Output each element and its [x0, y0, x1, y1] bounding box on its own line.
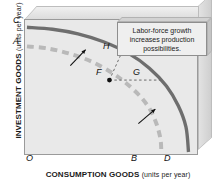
callout-box: Labor-force growth increases production …	[117, 22, 207, 56]
tick-label-C: C	[13, 15, 20, 25]
callout-text: Labor-force growth increases production …	[118, 26, 206, 53]
point-label-H: H	[103, 41, 110, 51]
x-axis-title-units: (units per year)	[142, 171, 191, 178]
tick-label-A: A	[13, 36, 19, 46]
x-axis-title: CONSUMPTION GOODS (units per year)	[28, 170, 208, 179]
point-label-G: G	[133, 67, 140, 77]
ppf-annotated-points-group	[107, 78, 112, 83]
point-marker-F	[107, 78, 112, 83]
ppf-figure: INVESTMENT GOODS (units per year) CONSUM…	[0, 0, 219, 182]
x-axis-title-bold: CONSUMPTION GOODS	[46, 170, 140, 179]
y-axis-title-bold: INVESTMENT GOODS	[14, 53, 23, 138]
callout-right-bevel	[207, 17, 212, 56]
point-label-F: F	[96, 67, 102, 77]
callout-face: Labor-force growth increases production …	[117, 22, 207, 56]
